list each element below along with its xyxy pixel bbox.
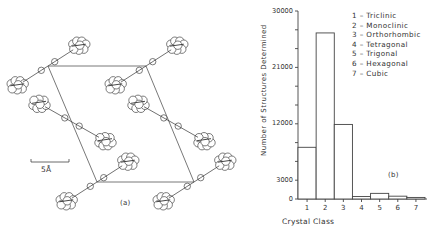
legend-item: 6 – Hexagonal — [352, 60, 408, 67]
y-tick-label: 12000 — [253, 120, 293, 127]
y-tick-label: 21000 — [253, 64, 293, 71]
panel-b-bar-chart: Number of Structures Determined 03000120… — [240, 0, 432, 235]
legend-item: 5 – Trigonal — [352, 50, 398, 57]
y-tick-label: 30000 — [253, 8, 293, 15]
panel-a-crystal-packing: 5Å (a) — [0, 0, 240, 235]
x-axis-title: Crystal Class — [282, 218, 334, 226]
molecule — [153, 153, 236, 210]
bar-2 — [316, 33, 334, 199]
x-tick-label: 4 — [356, 205, 368, 212]
bar-7 — [407, 197, 425, 199]
legend-item: 1 – Triclinic — [352, 12, 397, 19]
panel-a-label: (a) — [120, 200, 131, 207]
x-tick-label: 7 — [410, 205, 422, 212]
molecule — [7, 37, 90, 94]
legend-item: 2 – Monoclinic — [352, 22, 408, 29]
bar-3 — [334, 124, 352, 199]
x-tick-label: 6 — [392, 205, 404, 212]
molecule — [29, 95, 116, 150]
x-tick-label: 3 — [337, 205, 349, 212]
bar-4 — [352, 196, 370, 199]
bar-6 — [389, 196, 407, 199]
bar-5 — [371, 193, 389, 199]
molecule — [128, 95, 215, 150]
y-tick-label: 3000 — [253, 177, 293, 184]
panel-b-label: (b) — [388, 172, 399, 179]
x-tick-label: 2 — [319, 205, 331, 212]
scale-bar-label: 5Å — [41, 166, 52, 174]
y-tick-label: 0 — [253, 196, 293, 203]
legend-item: 7 – Cubic — [352, 70, 388, 77]
molecule — [105, 37, 188, 94]
legend-item: 4 – Tetragonal — [352, 41, 408, 48]
x-tick-label: 5 — [374, 205, 386, 212]
bar-1 — [298, 147, 316, 199]
legend-item: 3 – Orthorhombic — [352, 31, 421, 38]
scale-bar — [31, 159, 69, 162]
molecule-group — [7, 37, 236, 210]
x-tick-label: 1 — [301, 205, 313, 212]
